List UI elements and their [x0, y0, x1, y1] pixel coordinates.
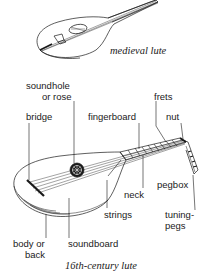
label-back: back: [25, 250, 45, 260]
label-body-or: body or: [13, 239, 45, 249]
caption-16th-century-lute: 16th-century lute: [65, 261, 137, 272]
label-soundboard: soundboard: [68, 239, 118, 249]
label-frets: frets: [154, 92, 172, 102]
label-soundhole: soundhole: [26, 81, 70, 91]
caption-medieval-lute: medieval lute: [110, 46, 166, 57]
label-nut: nut: [166, 112, 179, 122]
label-fingerboard: fingerboard: [88, 112, 136, 122]
label-tuning: tuning-: [165, 210, 194, 220]
label-pegs: pegs: [165, 221, 186, 231]
label-or-rose: or rose: [42, 92, 72, 102]
label-neck: neck: [124, 190, 144, 200]
renaissance-lute-drawing: [14, 138, 198, 217]
lute-illustrations: [0, 0, 209, 273]
label-bridge: bridge: [26, 112, 52, 122]
label-pegbox: pegbox: [157, 180, 188, 190]
label-strings: strings: [104, 210, 132, 220]
